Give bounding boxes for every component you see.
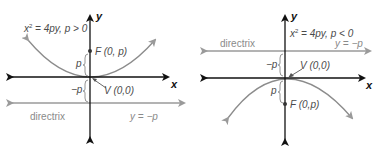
right-brace-p bbox=[278, 81, 283, 103]
left-focus-label: F (0, p) bbox=[95, 46, 127, 57]
right-x-axis-label: x bbox=[365, 79, 373, 91]
left-directrix-equation: y = −p bbox=[129, 111, 158, 122]
left-diagram: x2 = 4py, p > 0 y x F (0, p) V (0,0) p −… bbox=[12, 10, 184, 138]
left-brace-p bbox=[83, 54, 88, 76]
left-directrix-label: directrix bbox=[30, 111, 65, 122]
right-focus-label: F (0,p) bbox=[290, 99, 319, 110]
right-directrix-label: directrix bbox=[220, 38, 255, 49]
left-vertex-label: V (0,0) bbox=[104, 85, 134, 96]
left-focus-point bbox=[88, 49, 92, 53]
left-brace-neg-p bbox=[83, 80, 88, 102]
right-neg-p-label: −p bbox=[266, 59, 278, 70]
left-y-axis-label: y bbox=[95, 10, 103, 22]
parabola-diagrams: x2 = 4py, p > 0 y x F (0, p) V (0,0) p −… bbox=[0, 0, 378, 150]
right-y-axis-label: y bbox=[290, 10, 298, 22]
right-vertex-label: V (0,0) bbox=[300, 60, 330, 71]
right-brace-neg-p bbox=[278, 54, 283, 76]
left-x-axis-label: x bbox=[170, 78, 178, 90]
left-equation-label: x2 = 4py, p > 0 bbox=[23, 23, 88, 34]
right-directrix-equation: y = −p bbox=[334, 38, 363, 49]
right-diagram: x2 = 4py, p < 0 y x F (0,p) V (0,0) p −p… bbox=[206, 10, 373, 140]
right-p-label: p bbox=[270, 85, 277, 96]
right-focus-point bbox=[283, 102, 287, 106]
left-neg-p-label: −p bbox=[71, 84, 83, 95]
left-p-label: p bbox=[75, 58, 82, 69]
left-parabola-curve bbox=[28, 40, 155, 77]
